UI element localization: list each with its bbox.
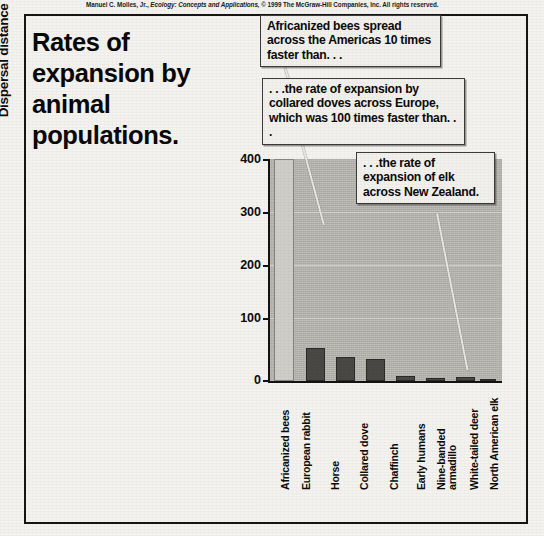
- x-axis-label-chaffinch: Chaffinch: [389, 443, 400, 490]
- bar-africanized-bees: [274, 159, 294, 381]
- bar-european-rabbit: [306, 348, 325, 381]
- y-tick-label-0: 0: [213, 375, 261, 385]
- x-axis-label-horse: Horse: [330, 461, 341, 490]
- y-tick-label-400: 400: [213, 154, 261, 164]
- callout-box-elk: . . .the rate of expansion of elk across…: [356, 152, 495, 204]
- bar-early-humans: [426, 378, 445, 381]
- x-axis-label-collared-dove: Collared dove: [359, 423, 370, 490]
- bar-collared-dove: [366, 359, 385, 381]
- x-axis-label-european-rabbit: European rabbit: [301, 413, 312, 490]
- y-tick-label-200: 200: [213, 260, 261, 270]
- bar-horse: [336, 357, 355, 381]
- y-axis-title: Dispersal distance (km/year): [0, 0, 11, 150]
- y-tick-label-100: 100: [213, 313, 261, 323]
- bar-chaffinch: [396, 376, 415, 381]
- callout-box-africanized-bees: Africanized bees spread across the Ameri…: [260, 15, 441, 67]
- x-axis-label-white-tailed-deer: White-tailed deer: [469, 409, 480, 490]
- callout-box-collared-doves: . . .the rate of expansion by collared d…: [262, 78, 465, 145]
- bar-white-tailed-deer: [480, 379, 496, 381]
- bar-nine-banded-armadillo: [456, 377, 475, 381]
- x-axis-label-nine-banded-armadillo: Nine-banded armadillo: [436, 385, 458, 490]
- x-axis-label-early-humans: Early humans: [416, 424, 427, 490]
- x-axis-label-africanized-bees: Africanized bees: [280, 410, 291, 490]
- y-tick-label-300: 300: [213, 207, 261, 217]
- x-axis-label-north-american-elk: North American elk: [489, 385, 500, 490]
